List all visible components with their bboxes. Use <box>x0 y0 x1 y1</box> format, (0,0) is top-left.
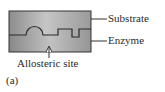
panel-label: (a) <box>6 75 18 86</box>
allosteric-site-label: Allosteric site <box>17 58 78 69</box>
substrate-label: Substrate <box>108 13 149 24</box>
enzyme-label: Enzyme <box>108 35 144 46</box>
